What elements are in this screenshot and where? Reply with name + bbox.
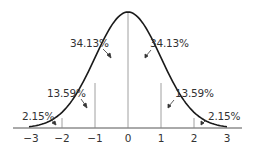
tick-2: 2 — [191, 133, 198, 144]
label-right-center: 34.13% — [150, 38, 189, 49]
normal-distribution-chart: 34.13% 34.13% 13.59% 13.59% 2.15% 2.15% … — [0, 0, 255, 150]
label-right-mid: 13.59% — [175, 88, 214, 99]
tick-0: 0 — [125, 133, 132, 144]
label-right-tail: 2.15% — [208, 111, 240, 122]
tick-1: 1 — [158, 133, 165, 144]
tick-minus-3: −3 — [23, 133, 38, 144]
arrowhead-right-tail — [201, 121, 204, 125]
tick-minus-1: −1 — [87, 133, 102, 144]
label-left-center: 34.13% — [70, 38, 109, 49]
chart-canvas — [0, 0, 255, 150]
label-left-tail: 2.15% — [22, 111, 54, 122]
tick-minus-2: −2 — [54, 133, 69, 144]
arrowhead-left-mid — [83, 103, 87, 108]
label-left-mid: 13.59% — [47, 88, 86, 99]
tick-3: 3 — [224, 133, 231, 144]
